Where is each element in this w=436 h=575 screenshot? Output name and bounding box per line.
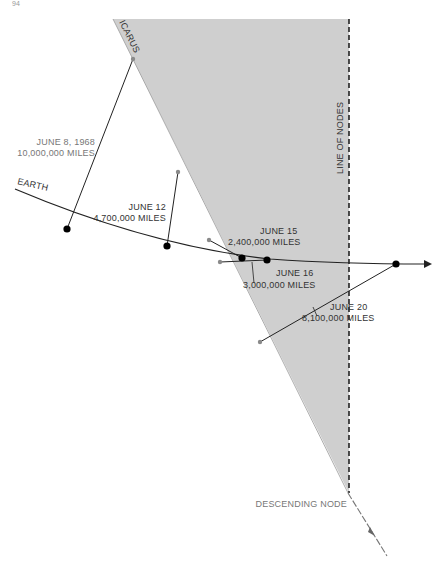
earth-direction-arrow-icon: [424, 260, 432, 268]
icarus-position-june-12: [176, 170, 180, 174]
june-16-distance: 3,000,000 MILES: [243, 280, 316, 290]
june-12-distance: 4,700,000 MILES: [93, 213, 166, 223]
icarus-orbit-diagram: ICARUS EARTH LINE OF NODES DESCENDING NO…: [0, 0, 436, 575]
earth-position-june-16: [263, 256, 270, 263]
icarus-position-june-8: [131, 57, 135, 61]
earth-position-june-15: [238, 254, 245, 261]
icarus-direction-arrow-icon: [368, 527, 375, 536]
earth-position-june-20: [392, 260, 399, 267]
icarus-orbit-continuation: [348, 493, 387, 556]
earth-position-june-12: [163, 242, 170, 249]
icarus-position-june-20: [258, 340, 262, 344]
descending-node-label: DESCENDING NODE: [255, 499, 347, 509]
june-16-date: JUNE 16: [276, 268, 313, 278]
icarus-position-june-16: [218, 260, 222, 264]
june-20-distance: 8,100,000 MILES: [302, 313, 375, 323]
line-of-nodes-label: LINE OF NODES: [335, 102, 345, 174]
sightline-june-12: [167, 172, 178, 246]
june-12-date: JUNE 12: [129, 202, 166, 212]
icarus-position-june-15: [207, 238, 211, 242]
june-8-date: JUNE 8, 1968: [37, 137, 95, 147]
june-8-distance: 10,000,000 MILES: [17, 148, 95, 158]
june-15-date: JUNE 15: [260, 226, 297, 236]
june-15-distance: 2,400,000 MILES: [228, 237, 301, 247]
june-20-date: JUNE 20: [330, 302, 367, 312]
earth-position-june-8: [63, 225, 70, 232]
earth-label: EARTH: [17, 176, 50, 193]
